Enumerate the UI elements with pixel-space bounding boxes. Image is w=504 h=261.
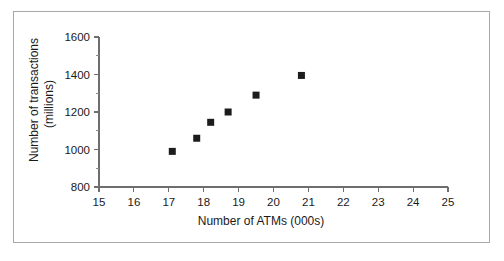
data-point-marker [193,135,200,142]
x-axis-title: Number of ATMs (000s) [198,214,324,228]
tick-marks-group [94,37,448,192]
x-tick-label: 22 [337,196,350,208]
y-tick-label: 1000 [64,144,90,156]
x-tick-label: 18 [197,196,210,208]
x-tick-label: 23 [372,196,385,208]
x-tick-label: 16 [128,196,141,208]
figure-root: 1516171819202122232425 80010001200140016… [0,0,504,261]
x-tick-label: 20 [267,196,280,208]
x-tick-label: 17 [162,196,175,208]
scatter-plot: 1516171819202122232425 80010001200140016… [14,12,489,242]
y-axis-title-line-2: (millions) [42,80,56,128]
y-tick-label: 800 [71,181,90,193]
data-point-marker [207,119,214,126]
x-tick-label: 15 [93,196,106,208]
figure-border-frame: 1516171819202122232425 80010001200140016… [13,11,490,243]
x-tick-label: 19 [232,196,245,208]
data-point-marker [169,148,176,155]
x-axis-tick-labels: 1516171819202122232425 [93,196,455,208]
axes-group [99,37,448,187]
x-tick-label: 24 [407,196,420,208]
y-axis-tick-labels: 8001000120014001600 [64,31,90,193]
y-tick-label: 1200 [64,106,90,118]
y-tick-label: 1600 [64,31,90,43]
data-point-marker [253,92,260,99]
y-axis-title-line-1: Number of transactions [27,38,41,162]
y-tick-label: 1400 [64,69,90,81]
x-tick-label: 25 [442,196,455,208]
data-point-marker [298,72,305,79]
data-point-marker [225,109,232,116]
data-points-group [169,72,305,155]
x-tick-label: 21 [302,196,315,208]
